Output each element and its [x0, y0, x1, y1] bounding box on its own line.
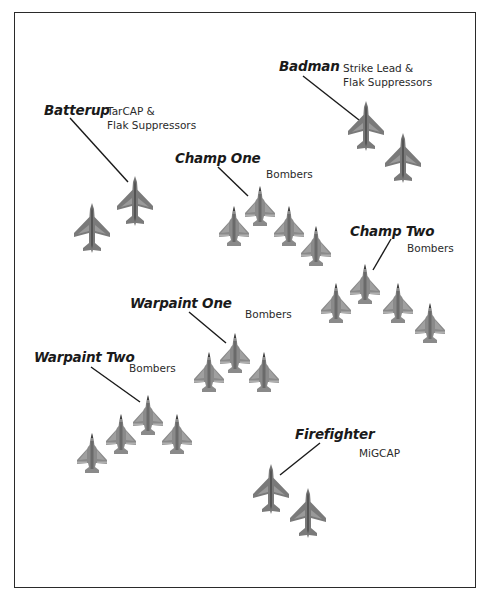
callsign-batterup: Batterup — [44, 102, 110, 118]
role-champ-one: Bombers — [266, 167, 313, 181]
role-line: Bombers — [266, 167, 313, 181]
role-badman: Strike Lead & Flak Suppressors — [343, 61, 432, 89]
callsign-badman: Badman — [279, 58, 340, 74]
role-warpaint-two: Bombers — [129, 361, 176, 375]
bomber-icon — [194, 352, 224, 392]
leader-line-champ-two — [373, 239, 391, 270]
fighter-icon — [348, 101, 384, 151]
fighter-icon — [385, 133, 421, 183]
bomber-icon — [220, 333, 250, 373]
bomber-icon — [350, 264, 380, 304]
callsign-warpaint-one: Warpaint One — [130, 295, 232, 311]
callsign-warpaint-two: Warpaint Two — [34, 349, 135, 365]
bomber-icon — [321, 283, 351, 323]
fighter-icon — [117, 176, 153, 226]
role-line: Flak Suppressors — [343, 75, 432, 89]
role-line: Flak Suppressors — [107, 118, 196, 132]
role-champ-two: Bombers — [407, 241, 454, 255]
role-batterup: TarCAP & Flak Suppressors — [107, 104, 196, 132]
role-line: MiGCAP — [359, 446, 400, 460]
bomber-icon — [219, 206, 249, 246]
callsign-firefighter: Firefighter — [295, 426, 375, 442]
bomber-icon — [301, 226, 331, 266]
bomber-icon — [249, 352, 279, 392]
callsign-champ-one: Champ One — [175, 150, 261, 166]
bomber-icon — [77, 433, 107, 473]
fighter-icon — [74, 203, 110, 253]
leader-line-champ-one — [218, 167, 248, 196]
role-line: Strike Lead & — [343, 61, 432, 75]
role-line: Bombers — [129, 361, 176, 375]
callsign-champ-two: Champ Two — [350, 223, 434, 239]
bomber-icon — [106, 414, 136, 454]
formation-diagram — [0, 0, 492, 603]
bomber-icon — [274, 206, 304, 246]
role-line: TarCAP & — [107, 104, 196, 118]
bomber-icon — [415, 303, 445, 343]
leader-line-firefighter — [280, 443, 320, 475]
leader-line-warpaint-one — [189, 312, 226, 343]
role-firefighter: MiGCAP — [359, 446, 400, 460]
bomber-icon — [162, 414, 192, 454]
bomber-icon — [245, 186, 275, 226]
role-warpaint-one: Bombers — [245, 307, 292, 321]
role-line: Bombers — [407, 241, 454, 255]
bomber-icon — [383, 283, 413, 323]
role-line: Bombers — [245, 307, 292, 321]
fighter-icon — [290, 488, 326, 538]
